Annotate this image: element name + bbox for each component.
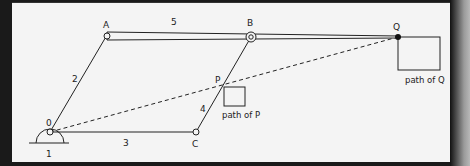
linkage-diagram: A 5 B Q 2 P 4 0 1 3 C path of P path of … [0, 0, 470, 166]
joint-b [246, 32, 256, 42]
joint-a [104, 33, 110, 39]
caption-path-of-q: path of Q [405, 75, 445, 85]
label-link-2: 2 [72, 74, 78, 84]
label-link-4: 4 [200, 104, 206, 114]
label-a: A [103, 20, 110, 30]
label-link-1: 1 [46, 149, 52, 159]
label-b: B [247, 18, 253, 28]
caption-path-of-p: path of P [222, 110, 260, 120]
label-c: C [192, 139, 198, 149]
label-link-3: 3 [123, 138, 129, 148]
point-q [395, 34, 401, 40]
label-q: Q [393, 22, 400, 32]
path-of-p-box [224, 87, 245, 106]
link-2 [50, 35, 107, 132]
label-p: P [215, 75, 221, 85]
label-o: 0 [46, 118, 52, 128]
joint-c [193, 129, 199, 135]
label-link-5: 5 [171, 17, 177, 27]
joint-o [47, 129, 53, 135]
path-of-q-box [398, 37, 440, 70]
